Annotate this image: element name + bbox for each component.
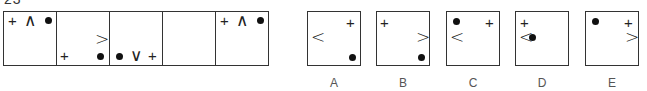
- chevron-left-icon: <: [311, 29, 325, 46]
- dot-icon: [453, 18, 460, 25]
- dot-icon: [349, 54, 356, 61]
- plus-icon: +: [8, 13, 17, 28]
- dot-icon: [116, 53, 123, 60]
- option-d[interactable]: + <: [515, 11, 569, 66]
- dot-icon: [257, 17, 264, 24]
- chevron-right-icon: >: [625, 29, 639, 46]
- chevron-right-icon: >: [416, 29, 430, 46]
- dot-icon: [592, 18, 599, 25]
- sequence-cell-2: > +: [57, 12, 110, 65]
- option-e[interactable]: + >: [585, 11, 639, 66]
- plus-icon: +: [485, 15, 494, 30]
- dot-icon: [418, 54, 425, 61]
- chevron-left-icon: <: [450, 29, 464, 46]
- option-a[interactable]: + <: [307, 11, 361, 66]
- dot-icon: [45, 17, 52, 24]
- sequence-cell-missing: [163, 12, 216, 65]
- plus-icon: +: [148, 48, 157, 63]
- plus-icon: +: [60, 48, 69, 63]
- chevron-up-icon: ∧: [236, 12, 248, 29]
- option-d-label: D: [515, 76, 569, 90]
- sequence-cell-3: ∨ +: [110, 12, 163, 65]
- sequence-row: + ∧ > + ∨ + + ∧: [3, 11, 269, 66]
- option-e-label: E: [585, 76, 639, 90]
- option-b-label: B: [376, 76, 430, 90]
- dot-icon: [529, 34, 536, 41]
- dot-icon: [97, 53, 104, 60]
- sequence-cell-1: + ∧: [4, 12, 57, 65]
- option-c[interactable]: + <: [446, 11, 500, 66]
- option-a-label: A: [307, 76, 361, 90]
- question-number: 23: [4, 0, 22, 7]
- plus-icon: +: [220, 13, 229, 28]
- chevron-up-icon: ∧: [24, 12, 36, 29]
- plus-icon: +: [346, 15, 355, 30]
- chevron-down-icon: ∨: [130, 47, 142, 64]
- sequence-cell-5: + ∧: [216, 12, 268, 65]
- chevron-right-icon: >: [95, 31, 109, 48]
- option-b[interactable]: + >: [376, 11, 430, 66]
- option-c-label: C: [446, 76, 500, 90]
- plus-icon: +: [380, 15, 389, 30]
